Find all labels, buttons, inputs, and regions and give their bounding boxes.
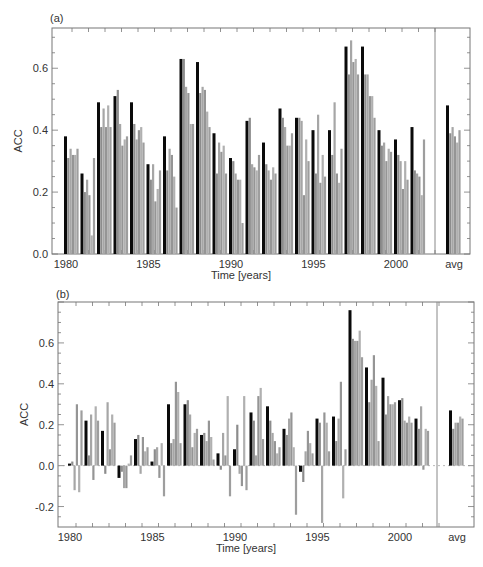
- bar-gray3: [121, 146, 123, 254]
- bar-gray1: [88, 455, 90, 465]
- bar-gray2: [400, 161, 402, 254]
- bar-gray1: [117, 90, 119, 254]
- bar-black: [180, 59, 183, 254]
- bar-gray1: [232, 161, 234, 254]
- bar-gray1: [187, 400, 189, 465]
- bar-group-1996: [328, 102, 343, 254]
- bar-gray1: [71, 462, 73, 466]
- bar-black: [147, 164, 150, 254]
- bar-gray3: [402, 189, 404, 254]
- bar-black: [299, 466, 302, 472]
- bar-gray5: [427, 431, 429, 466]
- bar-gray4: [456, 143, 458, 254]
- bar-gray3: [323, 412, 325, 465]
- bar-gray2: [152, 164, 154, 254]
- bar-black: [68, 464, 71, 466]
- bar-gray2: [350, 40, 352, 254]
- bar-gray1: [381, 146, 383, 254]
- bar-gray2: [387, 396, 389, 466]
- bar-gray3: [389, 404, 391, 465]
- bar-groups: [68, 310, 464, 523]
- bar-gray3: [290, 412, 292, 465]
- bar-gray3: [454, 136, 456, 254]
- bar-gray3: [385, 161, 387, 254]
- bar-gray5: [357, 74, 359, 254]
- bar-black: [365, 367, 368, 465]
- bar-gray5: [208, 127, 210, 254]
- bar-gray4: [272, 167, 274, 254]
- bar-black: [398, 400, 401, 465]
- bar-gray3: [336, 174, 338, 254]
- bar-gray5: [142, 143, 144, 254]
- bar-gray1: [150, 180, 152, 254]
- bar-gray2: [251, 164, 253, 254]
- y-tick-label: 0.4: [33, 124, 48, 136]
- bar-gray5: [373, 118, 375, 254]
- bar-gray3: [406, 423, 408, 466]
- bar-black: [85, 421, 88, 466]
- x-tick-label: 2000: [388, 531, 412, 543]
- bar-gray3: [241, 466, 243, 486]
- bar-black: [167, 404, 170, 465]
- bar-gray1: [121, 466, 123, 472]
- bar-gray3: [257, 396, 259, 466]
- bar-gray2: [371, 380, 373, 466]
- bar-gray4: [157, 189, 159, 254]
- bar-group-1994: [295, 118, 310, 254]
- bar-gray2: [301, 121, 303, 254]
- bar-black: [130, 102, 133, 254]
- panel-label: (a): [50, 12, 63, 24]
- bar-gray5: [361, 357, 363, 465]
- bar-group-2000: [398, 398, 413, 466]
- bar-gray5: [461, 419, 463, 466]
- bar-black: [101, 431, 104, 466]
- bar-black: [246, 121, 249, 254]
- bar-gray2: [119, 124, 121, 254]
- bar-group-1984: [134, 435, 149, 474]
- bar-gray2: [156, 447, 158, 465]
- bar-gray1: [100, 127, 102, 254]
- bar-gray2: [455, 423, 457, 466]
- bar-black: [316, 419, 319, 466]
- bar-gray2: [416, 174, 418, 254]
- bar-gray2: [272, 433, 274, 466]
- bar-gray5: [423, 139, 425, 254]
- bar-gray4: [359, 331, 361, 466]
- bar-gray3: [138, 130, 140, 254]
- bar-gray5: [163, 466, 165, 497]
- bar-black: [446, 105, 449, 254]
- bar-gray1: [220, 466, 222, 470]
- bar-black: [332, 417, 335, 466]
- bar-gray4: [190, 124, 192, 254]
- bar-group-1993: [279, 108, 294, 254]
- bar-gray1: [302, 466, 304, 482]
- bar-gray3: [187, 93, 189, 254]
- bar-gray4: [107, 105, 109, 254]
- bar-gray3: [369, 96, 371, 254]
- bar-group-1991: [246, 118, 261, 254]
- bar-gray2: [334, 102, 336, 254]
- bar-gray5: [245, 466, 247, 491]
- x-tick-label: avg: [448, 531, 466, 543]
- bar-gray1: [67, 158, 69, 254]
- bar-gray5: [159, 170, 161, 254]
- bar-gray4: [289, 146, 291, 254]
- bar-gray4: [388, 149, 390, 254]
- bar-gray5: [307, 161, 309, 254]
- bar-gray2: [284, 127, 286, 254]
- bar-group-1996: [332, 382, 347, 499]
- bar-black: [279, 108, 282, 254]
- bar-gray4: [227, 396, 229, 466]
- bar-gray3: [457, 423, 459, 466]
- bar-gray5: [390, 152, 392, 254]
- bar-gray4: [140, 127, 142, 254]
- bar-gray5: [113, 423, 115, 466]
- bar-gray2: [173, 439, 175, 466]
- bar-gray5: [225, 174, 227, 254]
- bar-group-1990: [233, 396, 248, 490]
- bar-black: [295, 118, 298, 254]
- bar-black: [217, 453, 220, 465]
- bar-group-1983: [114, 90, 129, 254]
- bar-gray3: [224, 455, 226, 465]
- bar-gray1: [249, 118, 251, 254]
